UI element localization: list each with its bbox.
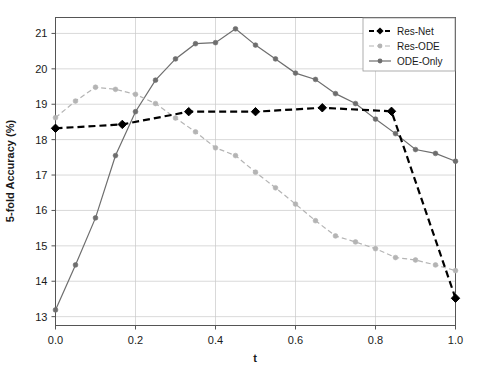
data-point-marker: [413, 147, 418, 152]
y-tick-label: 15: [35, 240, 47, 252]
data-point-marker: [318, 104, 326, 112]
y-tick-label: 19: [35, 98, 47, 110]
legend-label: Res-Net: [397, 26, 434, 37]
data-point-marker: [333, 234, 338, 239]
y-axis-title: 5-fold Accuracy (%): [4, 120, 16, 223]
data-point-marker: [387, 107, 395, 115]
legend-marker: [378, 44, 383, 49]
y-tick-label: 13: [35, 311, 47, 323]
legend-label: ODE-Only: [397, 56, 443, 67]
data-point-marker: [251, 107, 259, 115]
data-point-marker: [193, 129, 198, 134]
series-line: [56, 108, 456, 298]
data-point-marker: [153, 78, 158, 83]
x-axis-ticks: 0.00.20.40.60.81.0: [48, 326, 463, 346]
data-point-marker: [433, 263, 438, 268]
data-point-marker: [51, 124, 59, 132]
data-point-marker: [393, 131, 398, 136]
y-tick-label: 18: [35, 134, 47, 146]
data-point-marker: [273, 57, 278, 62]
y-axis-ticks: 131415161718192021: [35, 27, 55, 322]
x-tick-label: 0.2: [128, 334, 143, 346]
data-point-marker: [113, 87, 118, 92]
data-point-marker: [313, 77, 318, 82]
x-tick-label: 0.8: [368, 334, 383, 346]
data-point-marker: [133, 92, 138, 97]
legend-label: Res-ODE: [397, 41, 440, 52]
chart-figure: 131415161718192021 0.00.20.40.60.81.0 5-…: [0, 0, 477, 374]
data-point-marker: [53, 308, 58, 313]
x-tick-label: 0.6: [288, 334, 303, 346]
data-point-marker: [118, 120, 126, 128]
data-point-marker: [393, 255, 398, 260]
data-point-marker: [213, 40, 218, 45]
data-point-marker: [373, 246, 378, 251]
data-point-marker: [73, 99, 78, 104]
y-tick-label: 16: [35, 204, 47, 216]
data-point-marker: [173, 57, 178, 62]
series-res-net: [51, 104, 459, 303]
data-point-marker: [293, 71, 298, 76]
y-tick-label: 14: [35, 275, 47, 287]
data-point-marker: [333, 91, 338, 96]
data-point-marker: [453, 159, 458, 164]
data-point-marker: [353, 101, 358, 106]
x-tick-label: 0.0: [48, 334, 63, 346]
data-point-marker: [373, 117, 378, 122]
chart-legend[interactable]: Res-NetRes-ODEODE-Only: [363, 18, 455, 71]
data-point-marker: [133, 109, 138, 114]
data-point-marker: [193, 41, 198, 46]
data-point-marker: [153, 101, 158, 106]
data-point-marker: [233, 26, 238, 31]
data-point-marker: [93, 215, 98, 220]
legend-marker: [378, 59, 383, 64]
data-point-marker: [233, 153, 238, 158]
data-point-marker: [413, 258, 418, 263]
x-axis-title: t: [253, 352, 257, 364]
data-point-marker: [253, 43, 258, 48]
data-point-marker: [53, 115, 58, 120]
x-tick-label: 0.4: [208, 334, 223, 346]
data-point-marker: [113, 153, 118, 158]
data-point-marker: [273, 185, 278, 190]
data-point-marker: [353, 240, 358, 245]
data-point-marker: [451, 294, 459, 302]
data-point-marker: [293, 202, 298, 207]
data-point-marker: [433, 151, 438, 156]
y-tick-label: 17: [35, 169, 47, 181]
data-point-marker: [313, 218, 318, 223]
x-tick-label: 1.0: [448, 334, 463, 346]
data-point-marker: [185, 107, 193, 115]
data-point-marker: [173, 116, 178, 121]
data-point-marker: [453, 268, 458, 273]
data-point-marker: [253, 170, 258, 175]
data-point-marker: [93, 85, 98, 90]
line-chart: 131415161718192021 0.00.20.40.60.81.0 5-…: [0, 0, 477, 374]
y-tick-label: 20: [35, 63, 47, 75]
data-point-marker: [213, 145, 218, 150]
data-point-marker: [73, 263, 78, 268]
y-tick-label: 21: [35, 27, 47, 39]
